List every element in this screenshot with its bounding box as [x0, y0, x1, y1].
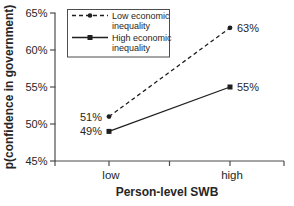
y-tick-label: 60%: [25, 44, 47, 56]
legend-marker-circle: [88, 13, 93, 18]
x-axis-title: Person-level SWB: [116, 185, 219, 199]
x-ticks: [109, 161, 284, 166]
series-1-marker: [228, 85, 233, 90]
legend-label: High economic: [112, 33, 172, 43]
series-1-value-label: 55%: [237, 81, 259, 93]
line-chart: 45% 50% 55% 60% 65% low high p(confidenc…: [0, 0, 294, 206]
legend-label: inequality: [112, 21, 151, 31]
chart-figure: 45% 50% 55% 60% 65% low high p(confidenc…: [0, 0, 294, 206]
series-0-marker: [107, 114, 112, 119]
legend-label: Low economic: [112, 11, 170, 21]
series-1-line: [109, 87, 230, 131]
y-axis-title: p(confidence in government): [2, 5, 16, 170]
y-tick-label: 45%: [25, 155, 47, 167]
legend-label: inequality: [112, 43, 151, 53]
legend: Low economic inequality High economic in…: [68, 10, 173, 58]
x-tick-labels: low high: [102, 169, 243, 181]
series-0-marker: [228, 25, 233, 30]
series-1-marker: [107, 129, 112, 134]
legend-marker-square: [88, 35, 93, 40]
series-0-value-label: 63%: [237, 22, 259, 34]
y-tick-label: 50%: [25, 118, 47, 130]
x-tick-label: low: [102, 169, 120, 181]
series-0-value-label: 51%: [80, 111, 102, 123]
y-tick-labels: 45% 50% 55% 60% 65%: [25, 7, 47, 167]
x-tick-label: high: [221, 169, 243, 181]
series-1-value-label: 49%: [80, 125, 102, 137]
y-tick-label: 55%: [25, 81, 47, 93]
y-tick-label: 65%: [25, 7, 47, 19]
